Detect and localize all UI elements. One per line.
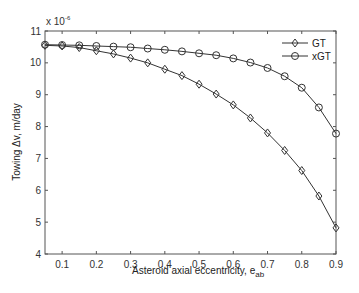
plot-axes: 0.10.20.30.40.50.60.70.80.94567891011 (30, 26, 344, 271)
y-tick-label: 6 (35, 185, 41, 196)
x-tick-label: 0.7 (261, 259, 275, 270)
plot-series (42, 41, 340, 232)
y-tick-label: 8 (35, 121, 41, 132)
x-axis-label: Asteroid axial eccentricity, eab (132, 265, 265, 279)
legend-item-xgt: xGT (282, 51, 331, 62)
plot-frame (45, 31, 336, 254)
x-tick-label: 0.8 (295, 259, 309, 270)
y-tick-label: 7 (35, 153, 41, 164)
svg-text:xGT: xGT (312, 51, 331, 62)
series-gt (42, 41, 339, 232)
svg-text:GT: GT (312, 38, 326, 49)
legend: GTxGT (282, 38, 331, 62)
y-axis-multiplier: x 10-6 (46, 15, 71, 27)
x-tick-label: 0.1 (55, 259, 69, 270)
legend-item-gt: GT (282, 38, 326, 49)
y-tick-label: 10 (30, 57, 42, 68)
line-chart: 0.10.20.30.40.50.60.70.80.94567891011 GT… (0, 0, 359, 293)
y-tick-label: 5 (35, 217, 41, 228)
x-tick-label: 0.2 (89, 259, 103, 270)
y-tick-label: 11 (31, 26, 42, 37)
y-tick-label: 4 (35, 249, 41, 260)
y-axis-label: Towing Δv, m/day (11, 103, 22, 181)
y-tick-label: 9 (35, 89, 41, 100)
x-tick-label: 0.9 (329, 259, 343, 270)
